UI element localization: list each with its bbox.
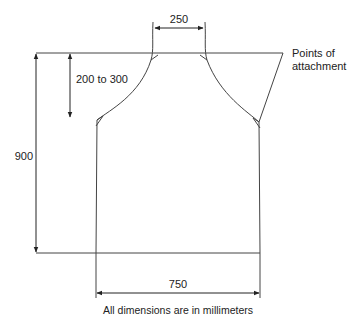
body-width-label: 750 [169, 278, 187, 290]
attachment-label-line2: attachment [292, 60, 346, 72]
reference-lines [36, 53, 283, 298]
apron-outline [96, 22, 260, 253]
total-length-label: 900 [15, 150, 33, 162]
units-footer: All dimensions are in millimeters [103, 304, 253, 316]
neck-width-label: 250 [170, 13, 188, 25]
armhole-depth-label: 200 to 300 [76, 73, 128, 85]
attachment-label-line1: Points of [292, 47, 336, 59]
apron-diagram: 250 200 to 300 900 750 Points of attachm… [0, 0, 358, 328]
